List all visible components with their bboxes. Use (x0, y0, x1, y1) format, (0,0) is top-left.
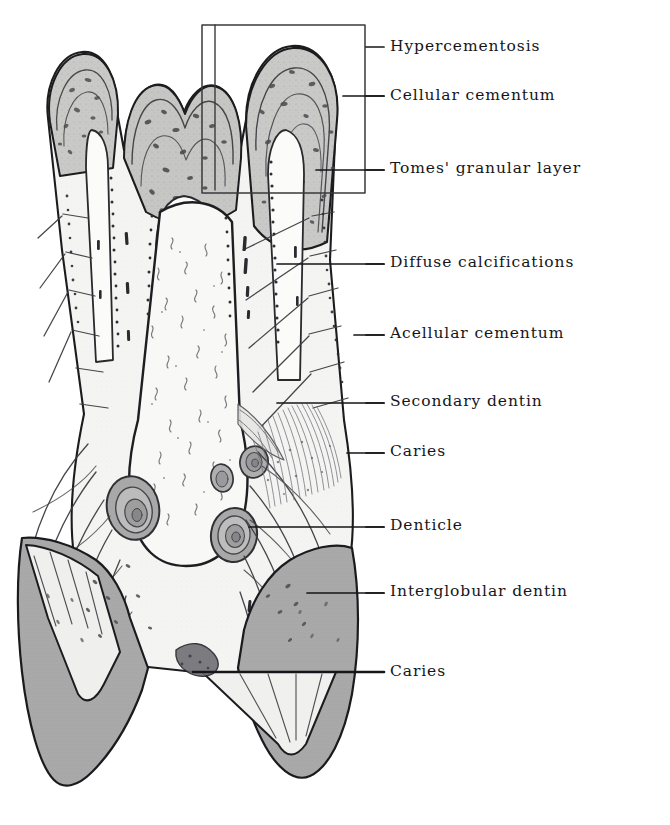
label-hypercementosis: Hypercementosis (390, 39, 540, 55)
label-acellular-cementum: Acellular cementum (390, 326, 564, 342)
label-tomes-granular-layer: Tomes' granular layer (390, 161, 581, 177)
label-denticle: Denticle (390, 518, 463, 534)
label-diffuse-calcifications: Diffuse calcifications (390, 255, 574, 271)
figure-page: Hypercementosis Cellular cementum Tomes'… (0, 0, 670, 825)
label-secondary-dentin: Secondary dentin (390, 394, 543, 410)
label-caries-upper: Caries (390, 444, 446, 460)
label-caries-lower: Caries (390, 664, 446, 680)
label-cellular-cementum: Cellular cementum (390, 88, 555, 104)
tooth-illustration (0, 0, 670, 825)
label-interglobular-dentin: Interglobular dentin (390, 584, 568, 600)
